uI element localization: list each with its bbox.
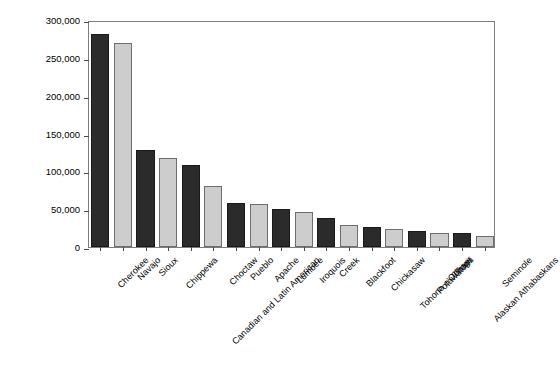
bar bbox=[91, 34, 109, 247]
bar bbox=[476, 236, 494, 247]
y-axis-tick-label: 50,000 bbox=[14, 205, 80, 215]
y-axis-tick bbox=[84, 98, 89, 99]
y-axis-tick-label: 200,000 bbox=[14, 92, 80, 102]
bar bbox=[453, 233, 471, 247]
y-axis-tick-label: 0 bbox=[14, 243, 80, 253]
x-axis-tick bbox=[213, 247, 214, 251]
bar bbox=[227, 203, 245, 247]
y-axis-tick bbox=[84, 173, 89, 174]
bar bbox=[272, 209, 290, 247]
x-axis-tick bbox=[439, 247, 440, 251]
x-axis-tick bbox=[281, 247, 282, 251]
bar bbox=[136, 150, 154, 247]
bar bbox=[340, 225, 358, 247]
bar bbox=[114, 43, 132, 247]
y-axis-tick bbox=[84, 136, 89, 137]
y-axis-tick-label: 100,000 bbox=[14, 167, 80, 177]
x-axis-tick bbox=[168, 247, 169, 251]
y-axis-tick bbox=[84, 249, 89, 250]
x-axis-tick bbox=[485, 247, 486, 251]
y-axis-tick-label: 150,000 bbox=[14, 130, 80, 140]
y-axis-tick bbox=[84, 60, 89, 61]
bar bbox=[430, 233, 448, 247]
x-axis-tick bbox=[462, 247, 463, 251]
x-axis-tick bbox=[191, 247, 192, 251]
bar bbox=[317, 218, 335, 248]
bar bbox=[385, 229, 403, 247]
x-axis-tick bbox=[394, 247, 395, 251]
bar bbox=[182, 165, 200, 247]
y-axis-tick bbox=[84, 22, 89, 23]
bar bbox=[250, 204, 268, 247]
x-axis-tick bbox=[349, 247, 350, 251]
x-axis-tick bbox=[259, 247, 260, 251]
x-axis-category-label: Tlingit bbox=[451, 255, 475, 279]
x-axis-tick bbox=[372, 247, 373, 251]
y-axis-tick-label: 300,000 bbox=[14, 16, 80, 26]
x-axis-tick bbox=[100, 247, 101, 251]
bar bbox=[295, 212, 313, 247]
bar bbox=[159, 158, 177, 247]
x-axis-tick bbox=[304, 247, 305, 251]
x-axis-tick bbox=[326, 247, 327, 251]
x-axis-tick bbox=[123, 247, 124, 251]
bar bbox=[363, 227, 381, 247]
x-axis-category-label: Chippewa bbox=[184, 255, 220, 291]
plot-area bbox=[88, 21, 495, 248]
x-axis-tick bbox=[146, 247, 147, 251]
plot-inner bbox=[89, 22, 494, 247]
y-axis-tick bbox=[84, 211, 89, 212]
bar bbox=[408, 231, 426, 247]
x-axis-tick bbox=[236, 247, 237, 251]
x-axis-tick bbox=[417, 247, 418, 251]
y-axis-tick-label: 250,000 bbox=[14, 54, 80, 64]
bar bbox=[204, 186, 222, 247]
